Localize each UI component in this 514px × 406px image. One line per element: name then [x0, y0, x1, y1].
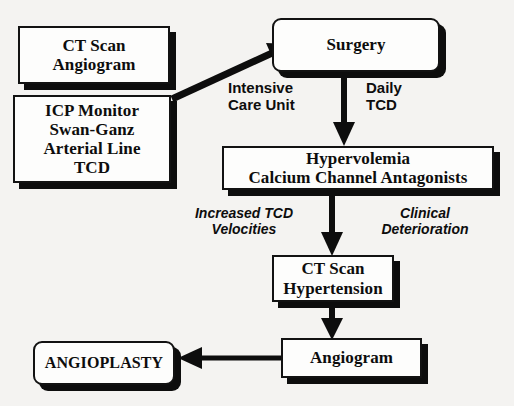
node-label-ct-scan-hypertension: CT Scan Hypertension: [279, 259, 386, 297]
node-angiogram[interactable]: Angiogram: [281, 338, 422, 378]
edge-angiogram-to-angioplasty: [178, 347, 281, 369]
edge-label-increased-tcd-velocities: Increased TCD Velocities: [176, 206, 312, 237]
node-label-icp-monitor: ICP Monitor Swan-Ganz Arterial Line TCD: [39, 101, 144, 177]
node-label-angioplasty: ANGIOPLASTY: [41, 354, 167, 372]
edge-label-intensive-care-unit: Intensive Care Unit: [228, 80, 334, 114]
edge-label-daily-tcd: Daily TCD: [366, 80, 440, 114]
flowchart-diagram: CT Scan Angiogram ICP Monitor Swan-Ganz …: [0, 0, 514, 406]
node-ct-scan-angiogram[interactable]: CT Scan Angiogram: [18, 26, 170, 84]
node-icp-monitor[interactable]: ICP Monitor Swan-Ganz Arterial Line TCD: [13, 95, 171, 183]
node-label-ct-scan-angiogram: CT Scan Angiogram: [48, 36, 139, 74]
node-hypervolemia[interactable]: Hypervolemia Calcium Channel Antagonists: [222, 146, 494, 190]
edge-ct-hypertension-to-angiogram: [321, 304, 343, 340]
node-label-hypervolemia: Hypervolemia Calcium Channel Antagonists: [244, 149, 471, 187]
edge-surgery-to-hypervolemia: [333, 72, 355, 146]
node-angioplasty[interactable]: ANGIOPLASTY: [33, 341, 175, 385]
node-label-surgery: Surgery: [322, 35, 389, 54]
node-label-angiogram: Angiogram: [306, 348, 397, 367]
edge-hypervolemia-to-ct-hypertension: [321, 190, 343, 256]
node-surgery[interactable]: Surgery: [272, 18, 440, 72]
node-ct-scan-hypertension[interactable]: CT Scan Hypertension: [272, 255, 394, 302]
edge-label-clinical-deterioration: Clinical Deterioration: [358, 206, 492, 237]
